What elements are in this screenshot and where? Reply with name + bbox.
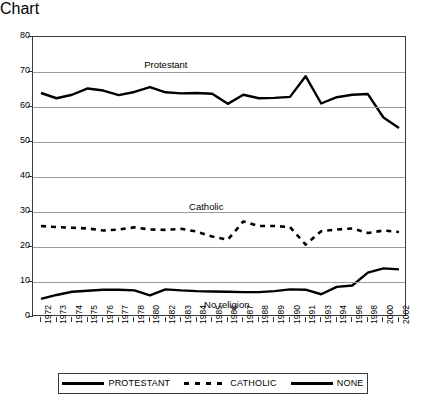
x-tick-mark-1993 <box>320 317 321 322</box>
gridline-50 <box>33 142 405 143</box>
x-tick-label-1993: 1993 <box>324 305 333 324</box>
x-tick-mark-1972 <box>40 317 41 322</box>
series-line-none <box>41 268 399 298</box>
gridline-40 <box>33 177 405 178</box>
annotation-protestant: Protestant <box>144 60 187 70</box>
legend-entry-catholic: CATHOLIC <box>184 379 276 388</box>
plot-area <box>32 36 406 316</box>
x-tick-label-1982: 1982 <box>168 305 177 324</box>
x-tick-label-1976: 1976 <box>106 305 115 324</box>
y-tick-label-0: 0 <box>4 311 30 320</box>
y-tick-label-70: 70 <box>4 66 30 75</box>
x-tick-label-1996: 1996 <box>355 305 364 324</box>
x-axis: 1972197319741975197619771978198019821983… <box>32 317 406 375</box>
x-tick-label-1989: 1989 <box>277 305 286 324</box>
x-tick-label-1998: 1998 <box>370 305 379 324</box>
legend-entry-none: NONE <box>291 379 364 388</box>
x-tick-mark-1977 <box>118 317 119 322</box>
legend-swatch-catholic-icon <box>184 382 226 385</box>
gridline-30 <box>33 212 405 213</box>
x-tick-mark-1991 <box>305 317 306 322</box>
annotation-no-religion: No religion <box>204 300 249 310</box>
x-tick-mark-2000 <box>382 317 383 322</box>
y-tick-label-40: 40 <box>4 171 30 180</box>
x-tick-label-1977: 1977 <box>121 305 130 324</box>
x-tick-label-1980: 1980 <box>152 305 161 324</box>
y-tick-label-60: 60 <box>4 101 30 110</box>
legend-entry-protestant: PROTESTANT <box>62 379 170 388</box>
x-tick-label-2000: 2000 <box>386 305 395 324</box>
legend-label-protestant: PROTESTANT <box>108 379 170 388</box>
x-tick-label-2002: 2002 <box>402 305 411 324</box>
x-tick-label-1988: 1988 <box>261 305 270 324</box>
y-tick-label-80: 80 <box>4 31 30 40</box>
x-tick-mark-1982 <box>165 317 166 322</box>
x-tick-mark-1980 <box>149 317 150 322</box>
annotation-catholic: Catholic <box>189 202 223 212</box>
legend-label-catholic: CATHOLIC <box>230 379 276 388</box>
chart-legend: PROTESTANTCATHOLICNONE <box>58 373 368 394</box>
gridline-70 <box>33 72 405 73</box>
x-tick-mark-1998 <box>367 317 368 322</box>
gridline-20 <box>33 247 405 248</box>
x-tick-label-1972: 1972 <box>44 305 53 324</box>
x-tick-mark-1978 <box>133 317 134 322</box>
x-tick-mark-1973 <box>56 317 57 322</box>
gridline-60 <box>33 107 405 108</box>
x-tick-mark-2002 <box>398 317 399 322</box>
x-tick-mark-1984 <box>196 317 197 322</box>
series-line-protestant <box>41 76 399 128</box>
x-tick-label-1974: 1974 <box>75 305 84 324</box>
x-tick-label-1978: 1978 <box>137 305 146 324</box>
x-tick-mark-1974 <box>71 317 72 322</box>
x-tick-label-1983: 1983 <box>184 305 193 324</box>
y-tick-label-30: 30 <box>4 206 30 215</box>
x-tick-label-1973: 1973 <box>59 305 68 324</box>
y-tick-label-20: 20 <box>4 241 30 250</box>
y-axis: 01020304050607080 <box>0 18 30 316</box>
x-tick-mark-1985 <box>211 317 212 322</box>
x-tick-mark-1989 <box>273 317 274 322</box>
x-tick-mark-1983 <box>180 317 181 322</box>
series-line-catholic <box>41 221 399 244</box>
x-tick-mark-1986 <box>227 317 228 322</box>
line-chart: 01020304050607080 1972197319741975197619… <box>0 18 425 398</box>
x-tick-mark-1996 <box>351 317 352 322</box>
x-tick-label-1994: 1994 <box>339 305 348 324</box>
x-tick-mark-1994 <box>336 317 337 322</box>
x-tick-label-1990: 1990 <box>293 305 302 324</box>
x-tick-mark-1976 <box>102 317 103 322</box>
gridline-10 <box>33 282 405 283</box>
x-tick-mark-1987 <box>242 317 243 322</box>
x-tick-mark-1988 <box>258 317 259 322</box>
x-tick-label-1975: 1975 <box>90 305 99 324</box>
y-tick-label-10: 10 <box>4 276 30 285</box>
legend-label-none: NONE <box>337 379 364 388</box>
legend-swatch-none-icon <box>291 382 333 384</box>
y-tick-label-50: 50 <box>4 136 30 145</box>
x-tick-mark-1975 <box>87 317 88 322</box>
legend-swatch-protestant-icon <box>62 382 104 384</box>
x-tick-label-1991: 1991 <box>308 305 317 324</box>
x-tick-mark-1990 <box>289 317 290 322</box>
